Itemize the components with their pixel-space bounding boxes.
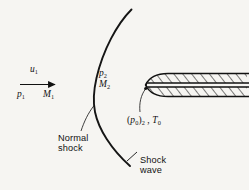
normal-shock-annotation: Normalshock bbox=[58, 133, 89, 154]
hatched-pitot-tube-body bbox=[143, 72, 249, 98]
shock-wave-diagram: u1 p1 M1 p2 M2 (p0)2 , T0 Normalshock Sh… bbox=[0, 0, 249, 190]
stagnation-conditions-label: (p0)2 , T0 bbox=[127, 115, 161, 126]
upstream-mach-label: M1 bbox=[43, 89, 54, 100]
upstream-velocity-label: u1 bbox=[30, 64, 38, 75]
downstream-mach-label: M2 bbox=[99, 79, 110, 90]
diagram-canvas bbox=[0, 0, 249, 190]
leader-line-to-tube-tip bbox=[140, 87, 147, 112]
shock-wave-annotation: Shockwave bbox=[140, 155, 166, 176]
leader-line-to-shock-wave bbox=[127, 152, 137, 161]
leader-line-to-shock bbox=[81, 105, 95, 131]
downstream-pressure-label: p2 bbox=[99, 68, 107, 79]
upstream-pressure-label: p1 bbox=[17, 89, 25, 100]
